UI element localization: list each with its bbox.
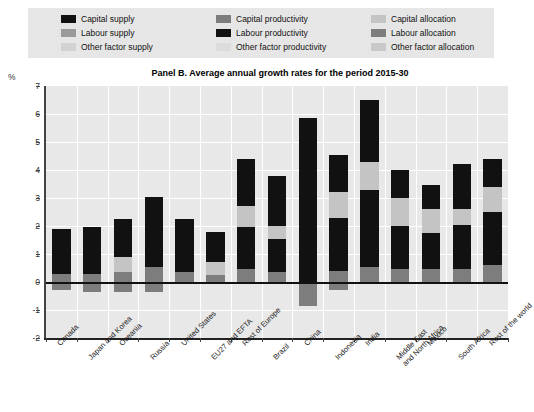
bar-segment — [329, 218, 347, 271]
legend-item: Capital productivity — [183, 15, 338, 24]
y-axis-labels: 76543210-1-2 — [0, 86, 40, 338]
bar-segment — [175, 219, 193, 243]
bar-middle-east-and-north-africa — [391, 86, 409, 338]
y-tick-mark — [36, 254, 40, 255]
bar-segment — [483, 159, 501, 187]
legend-item-label: Other factor allocation — [391, 43, 474, 52]
y-tick-label: -1 — [4, 305, 40, 315]
column-separator — [323, 86, 324, 338]
bar-segment — [83, 274, 101, 282]
y-tick-label: 1 — [4, 249, 40, 259]
y-tick-label: 5 — [4, 137, 40, 147]
bar-segment — [206, 248, 224, 262]
column-separator — [200, 86, 201, 338]
column-separator — [477, 86, 478, 338]
y-tick-label: 0 — [4, 277, 40, 287]
bar-segment — [299, 118, 317, 282]
bar-segment — [483, 187, 501, 212]
legend-swatch-icon — [216, 29, 231, 37]
bar-segment — [114, 257, 132, 272]
bar-segment — [237, 269, 255, 282]
legend-item: Labour supply — [28, 29, 183, 38]
legend-swatch-icon — [61, 29, 76, 37]
legend-item-label: Labour productivity — [236, 29, 308, 38]
bar-segment — [329, 271, 347, 282]
column-separator — [108, 86, 109, 338]
bar-mexico — [422, 86, 440, 338]
legend-item: Labour allocation — [338, 29, 494, 38]
bar-segment — [329, 192, 347, 217]
y-tick-mark — [36, 170, 40, 171]
bar-rest-of-the-world — [483, 86, 501, 338]
column-separator — [231, 86, 232, 338]
bar-segment — [268, 226, 286, 239]
bar-united-states — [175, 86, 193, 338]
legend-grid: Capital supplyCapital productivityCapita… — [28, 12, 494, 54]
chart-legend: Capital supplyCapital productivityCapita… — [28, 8, 494, 58]
bar-segment — [453, 225, 471, 270]
column-separator — [385, 86, 386, 338]
chart-title: Panel B. Average annual growth rates for… — [60, 68, 500, 78]
bar-segment — [391, 198, 409, 226]
bar-segment — [52, 274, 70, 282]
legend-swatch-icon — [216, 15, 231, 23]
bar-segment — [268, 272, 286, 282]
bar-india — [360, 86, 378, 338]
x-tick-label: Brazil — [272, 343, 292, 363]
column-separator — [416, 86, 417, 338]
bar-segment — [175, 272, 193, 282]
bar-segment — [83, 227, 101, 251]
zero-line — [46, 282, 508, 284]
bar-segment — [175, 243, 193, 272]
legend-item: Labour productivity — [183, 29, 338, 38]
bar-segment — [237, 159, 255, 207]
bar-segment — [145, 197, 163, 231]
bar-segment — [52, 244, 70, 273]
y-tick-mark — [36, 86, 40, 87]
bar-segment — [453, 209, 471, 224]
bar-segment — [114, 272, 132, 282]
bar-segment — [453, 269, 471, 282]
legend-item: Other factor allocation — [338, 43, 494, 52]
legend-item-label: Capital allocation — [391, 15, 456, 24]
bar-segment — [237, 227, 255, 269]
column-separator — [292, 86, 293, 338]
legend-item: Capital supply — [28, 15, 183, 24]
bar-segment — [329, 155, 347, 193]
bar-segment — [483, 212, 501, 265]
bar-japan-and-korea — [83, 86, 101, 338]
legend-item: Capital allocation — [338, 15, 494, 24]
y-tick-mark — [36, 282, 40, 283]
legend-item: Other factor productivity — [183, 43, 338, 52]
y-tick-label: 2 — [4, 221, 40, 231]
bar-segment — [360, 100, 378, 162]
bar-segment — [83, 251, 101, 273]
plot-area — [46, 86, 508, 338]
bar-segment — [453, 164, 471, 209]
legend-swatch-icon — [371, 43, 386, 51]
y-tick-mark — [36, 142, 40, 143]
legend-swatch-icon — [371, 29, 386, 37]
column-separator — [262, 86, 263, 338]
legend-swatch-icon — [61, 15, 76, 23]
y-tick-label: 7 — [4, 81, 40, 91]
y-tick-label: 6 — [4, 109, 40, 119]
legend-item: Other factor supply — [28, 43, 183, 52]
legend-swatch-icon — [61, 43, 76, 51]
y-tick-mark — [36, 226, 40, 227]
bar-segment — [391, 226, 409, 269]
bar-segment — [391, 170, 409, 198]
x-axis-labels: CanadaJapan and KoreaOceaniaRussiaUnited… — [0, 340, 518, 412]
bar-south-africa — [453, 86, 471, 338]
bar-china — [299, 86, 317, 338]
legend-item-label: Capital supply — [81, 15, 134, 24]
legend-swatch-icon — [371, 15, 386, 23]
bar-segment — [145, 267, 163, 282]
bar-segment — [391, 269, 409, 282]
bar-russia — [145, 86, 163, 338]
column-separator — [354, 86, 355, 338]
bar-segment-negative — [299, 282, 317, 306]
bar-oceania — [114, 86, 132, 338]
bar-segment — [206, 262, 224, 275]
